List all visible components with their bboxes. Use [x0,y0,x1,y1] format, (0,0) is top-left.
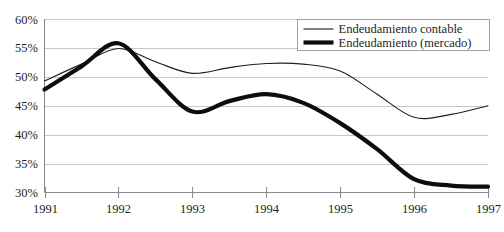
legend-label-1: Endeudamiento contable [339,22,463,36]
x-axis-tick-labels: 1991199219931994199519961997 [33,202,501,216]
y-tick-label: 60% [15,13,38,27]
data-series-group [45,43,489,187]
y-tick-label: 30% [15,186,38,200]
x-tick-label: 1993 [180,202,205,216]
series-line-2 [45,43,489,187]
y-tick-label: 50% [15,70,38,84]
y-tick-label: 40% [15,128,38,142]
line-chart: 60%55%50%45%40%35%30% 199119921993199419… [0,0,504,232]
y-tick-label: 45% [15,99,38,113]
x-tick-label: 1997 [476,202,501,216]
series-line-1 [45,48,489,118]
y-tick-label: 35% [15,157,38,171]
y-tick-label: 55% [15,41,38,55]
chart-container: 60%55%50%45%40%35%30% 199119921993199419… [0,0,504,232]
x-tick-label: 1991 [33,202,58,216]
chart-legend: Endeudamiento contableEndeudamiento (mer… [298,20,490,51]
x-tick-label: 1994 [254,202,280,216]
x-tick-label: 1992 [106,202,131,216]
x-tick-label: 1995 [328,202,353,216]
legend-label-2: Endeudamiento (mercado) [339,36,472,50]
y-axis-tick-labels: 60%55%50%45%40%35%30% [15,13,38,201]
x-tick-label: 1996 [402,202,427,216]
